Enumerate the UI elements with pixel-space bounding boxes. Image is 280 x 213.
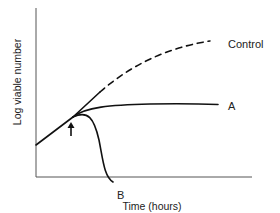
y-axis-label: Log viable number [11,38,23,125]
control-curve-solid [73,92,100,117]
label-a: A [228,100,236,112]
growth-curve-chart: Control A B Time (hours) Log viable numb… [0,0,280,213]
arrow-up-icon [68,122,75,136]
curve-a [73,104,218,117]
curve-b [73,115,113,182]
label-control: Control [228,38,263,50]
x-axis-label: Time (hours) [122,200,181,212]
control-curve-dashed [100,41,210,92]
initial-growth-line [36,117,73,145]
